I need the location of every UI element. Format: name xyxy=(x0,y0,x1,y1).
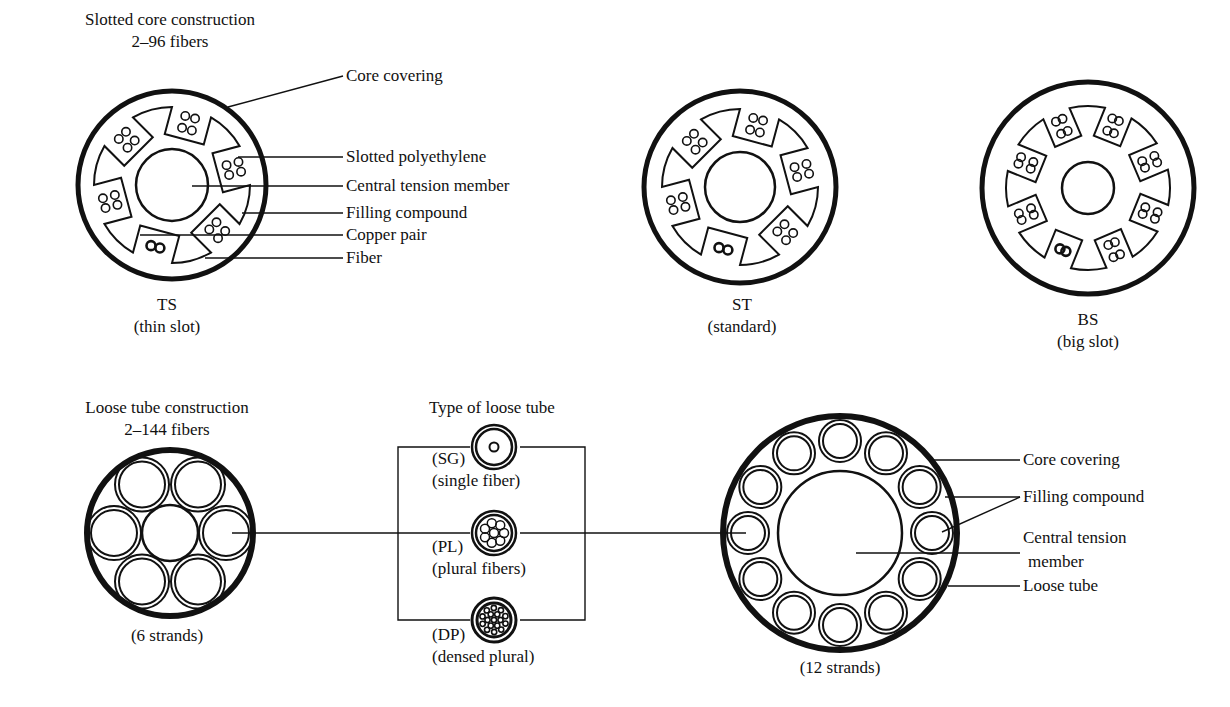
twelve-callout-central-tension: Central tension xyxy=(1023,528,1126,548)
type-sg-code: (SG) xyxy=(432,449,465,469)
bs-code: BS xyxy=(1078,310,1099,330)
st-name: (standard) xyxy=(708,317,777,337)
twelve-callout-member: member xyxy=(1028,552,1084,572)
ts-callout-copper-pair: Copper pair xyxy=(346,225,427,245)
bs-name: (big slot) xyxy=(1057,332,1119,352)
twelve-callout-core-covering: Core covering xyxy=(1023,450,1120,470)
loose-subtitle: 2–144 fibers xyxy=(124,420,209,440)
type-pl-code: (PL) xyxy=(432,537,463,557)
twelve-callout-filling-compound: Filling compound xyxy=(1023,487,1144,507)
ts-thin-slot-cable xyxy=(78,91,266,279)
ts-callout-fiber: Fiber xyxy=(346,248,382,268)
cable-cross-section-diagram xyxy=(0,0,1230,707)
six-strand-loose-tube-cable xyxy=(87,450,253,616)
ts-callout-slotted-polyethylene: Slotted polyethylene xyxy=(346,147,486,167)
type-dp-name: (densed plural) xyxy=(432,647,534,667)
st-standard-cable xyxy=(644,91,836,283)
type-sg-name: (single fiber) xyxy=(432,471,520,491)
six-strand-caption: (6 strands) xyxy=(131,626,203,646)
ts-name: (thin slot) xyxy=(134,317,201,337)
twelve-strand-caption: (12 strands) xyxy=(800,658,881,678)
loose-tube-types xyxy=(472,425,516,642)
loose-types-title: Type of loose tube xyxy=(429,398,555,418)
slotted-subtitle: 2–96 fibers xyxy=(132,32,209,52)
st-code: ST xyxy=(732,295,752,315)
type-dp-code: (DP) xyxy=(432,625,465,645)
type-pl-name: (plural fibers) xyxy=(432,559,526,579)
ts-callout-central-tension-member: Central tension member xyxy=(346,176,509,196)
twelve-strand-loose-tube-cable xyxy=(723,416,957,650)
loose-title: Loose tube construction xyxy=(85,398,248,418)
ts-code: TS xyxy=(157,295,177,315)
twelve-callout-loose-tube: Loose tube xyxy=(1023,576,1098,596)
slotted-title: Slotted core construction xyxy=(85,10,255,30)
ts-callout-filling-compound: Filling compound xyxy=(346,203,467,223)
ts-callout-core-covering: Core covering xyxy=(346,66,443,86)
bs-big-slot-cable xyxy=(982,82,1194,294)
